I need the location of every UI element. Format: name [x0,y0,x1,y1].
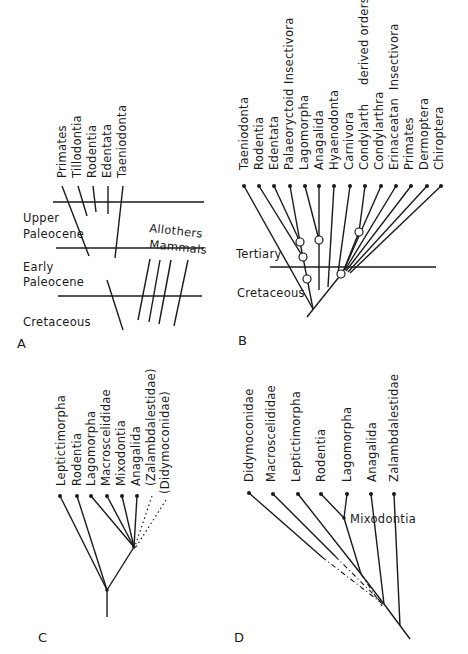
panel-c-taxon: Leptictimorpha [54,395,68,486]
panel-letter-b: B [238,333,247,348]
panel-b-taxon: Taeniodonta [237,97,251,171]
panel-b-taxon: Hyaenodonta [327,90,341,170]
node-dot [342,516,346,520]
branch [328,186,334,287]
branch [371,494,384,604]
stem [384,604,410,639]
panel-d-taxon: Rodentia [314,429,328,482]
lineage [149,260,160,322]
panel-d-taxon: Zalambdalestidae [387,374,401,482]
node-dot [132,545,136,549]
lineage [78,186,87,216]
panel-a-taxon: Edentata [100,124,114,178]
branch [274,186,300,242]
panel-b-taxon: Condylarth [357,104,371,170]
panel-letter-d: D [234,630,244,645]
mixodontia-label: Mixodontia [350,512,416,526]
panel-b-taxon: Palaeoryctoid [282,88,296,170]
panel-a-taxon: Tillodontia [70,115,84,179]
panel-b: Taeniodonta Rodentia Edentata Palaeoryct… [235,0,446,348]
annotation-insectivora: Insectivora [387,23,401,90]
branch [344,494,347,518]
panel-c-taxon: (Zalambdalestidae) [144,368,158,486]
panel-c: Leptictimorpha Rodentia Lagomorpha Macro… [38,368,172,645]
panel-b-taxon: Primates [402,117,416,170]
branch [107,547,134,590]
branch [346,186,411,271]
panel-d-taxon: Macroscelididae [264,385,278,482]
panel-b-taxon: Edentata [267,116,281,170]
panel-b-taxon: Erinaceatan [387,98,401,170]
panel-a-taxon: Taeniodonta [115,105,129,179]
period-label: Cretaceous [237,286,305,300]
lineage [93,186,96,212]
lineage [62,186,89,256]
panel-b-taxon: Anagalida [312,110,326,170]
branch [344,518,361,574]
branch [60,496,107,590]
lineage [107,280,123,330]
branch [305,186,319,240]
node-circle [299,253,307,261]
panel-c-taxon: Lagomorpha [84,411,98,486]
tip-dots [58,494,139,498]
uncertain-branch [135,496,152,546]
panel-b-taxon: Rodentia [252,117,266,170]
panel-d-taxon: Lagomorpha [340,407,354,482]
panel-a: Primates Tillodontia Rodentia Edentata T… [17,105,208,351]
period-label: Tertiary [235,247,282,261]
panel-b-taxon: Dermoptera [417,98,431,170]
branch [290,186,300,242]
node-circle [296,238,304,246]
phylogeny-figure: Primates Tillodontia Rodentia Edentata T… [0,0,468,654]
panel-d-taxon: Didymoconidae [242,388,256,482]
branch [249,493,322,557]
annotation-derived-orders: derived orders [357,0,371,85]
panel-c-taxon: (Didymoconidae) [158,391,172,494]
branch [344,186,381,270]
lineage [174,260,188,326]
period-label: Paleocene [23,227,84,241]
panel-d-taxon: Leptictimorpha [289,391,303,482]
panel-c-taxon: Mixodontia [114,420,128,486]
branch [298,494,361,574]
node-dot [105,588,109,592]
panel-b-taxon: Chiroptera [432,106,446,170]
stem [307,272,343,317]
panel-a-taxon: Primates [55,125,69,178]
lineage [115,186,123,258]
panel-b-taxon: Condylarthra [372,91,386,170]
panel-d-taxon: Anagalida [365,422,379,482]
branch [134,496,137,547]
panel-b-taxon: Lagomorpha [297,95,311,170]
period-label: Upper [23,211,59,225]
panel-letter-a: A [17,336,26,351]
branch [321,494,344,518]
node-circle [303,275,311,283]
branch [273,494,335,556]
tip-dots [242,184,443,188]
node-circle [355,228,363,236]
panel-a-taxon: Rodentia [85,125,99,178]
panel-c-taxon: Anagalida [129,426,143,486]
lineage [159,260,171,324]
annotation-insectivora: Insectivora [282,17,296,84]
uncertain-branch [136,500,166,547]
panel-d: Didymoconidae Macroscelididae Leptictimo… [234,374,416,645]
period-label: Early [23,260,54,274]
panel-c-taxon: Rodentia [70,433,84,486]
panel-letter-c: C [38,630,47,645]
period-label: Cretaceous [23,315,91,329]
panel-c-taxon: Macroscelididae [99,389,113,486]
branch [107,496,134,547]
node-circle [315,236,323,244]
panel-b-taxon: Carnivora [342,112,356,170]
period-label: Paleocene [23,275,84,289]
node-circle [337,270,345,278]
lineage [138,259,150,320]
